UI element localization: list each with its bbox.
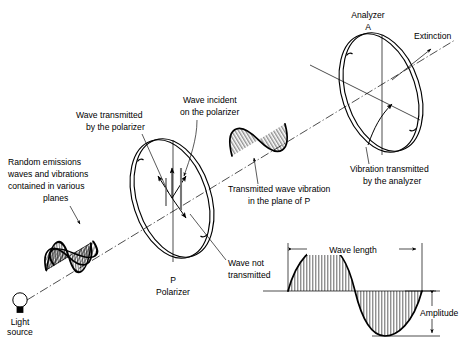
polarizer-symbol: P (170, 275, 176, 285)
amplitude-text: Amplitude (420, 308, 458, 318)
vibration-transmitted-line2: by the analyzer (363, 176, 421, 186)
random-emissions-line1: Random emissions (8, 157, 81, 167)
random-emissions-line3: contained in various (8, 181, 84, 191)
wave-not-transmitted-line1: Wave not (228, 258, 265, 268)
transmitted-vibration-line1: Transmitted wave vibration (228, 184, 331, 194)
wave-not-transmitted-line2: transmitted (228, 270, 271, 280)
random-emissions-line2: waves and vibrations (7, 169, 88, 179)
transmitted-vibration-line2: in the plane of P (248, 196, 310, 206)
wave-transmitted-line2: by the polarizer (86, 122, 145, 132)
wave-transmitted-line1: Wave transmitted (76, 110, 143, 120)
light-source-label: Light source (7, 317, 33, 337)
wave-incident-line1: Wave incident (183, 95, 237, 105)
wavelength-text: Wave length (329, 245, 377, 255)
polarization-diagram: Light source Random emissions waves and … (0, 0, 471, 345)
wave-incident-line2: on the polarizer (180, 107, 239, 117)
analyzer-symbol: A (365, 22, 371, 32)
light-source-label-line1: Light (11, 317, 30, 327)
diagram-canvas: Light source Random emissions waves and … (0, 0, 471, 345)
random-emissions-line4: planes (43, 193, 68, 203)
polarizer-name: Polarizer (156, 287, 190, 297)
vibration-transmitted-line1: Vibration transmitted (350, 164, 429, 174)
analyzer-name: Analyzer (351, 10, 385, 20)
extinction-text: Extinction (414, 31, 451, 41)
light-source-label-line2: source (7, 327, 33, 337)
